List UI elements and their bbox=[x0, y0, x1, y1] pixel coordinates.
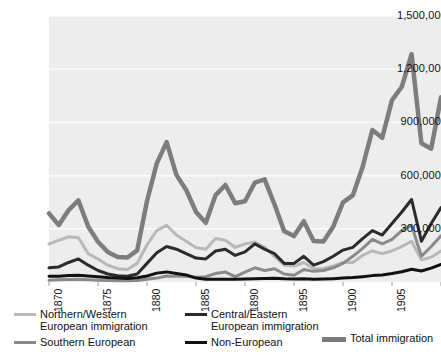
chart-plot-area: 1,500,0001,200,000900,000600,000300,000 … bbox=[0, 0, 441, 300]
immigration-line-chart-figure: 1,500,0001,200,000900,000600,000300,000 … bbox=[0, 0, 441, 356]
legend-line-total bbox=[322, 337, 346, 342]
legend-label: Southern European bbox=[40, 336, 135, 348]
y-axis-tick-label: 600,000 bbox=[397, 170, 441, 181]
legend-line-central-eastern bbox=[185, 313, 207, 316]
legend-label: Central/Eastern European immigration bbox=[211, 308, 319, 333]
legend-entry: Total immigration bbox=[322, 332, 433, 344]
legend-entry: Central/Eastern European immigration bbox=[185, 308, 319, 333]
chart-canvas bbox=[0, 0, 441, 300]
legend-entry: Non-European bbox=[185, 336, 283, 348]
y-axis-tick-label: 300,000 bbox=[397, 223, 441, 234]
legend-line-southern bbox=[14, 341, 36, 344]
legend-label: Total immigration bbox=[350, 332, 433, 344]
legend-entry: Northern/Western European immigration bbox=[14, 308, 148, 333]
y-axis-tick-label: 1,200,000 bbox=[397, 63, 441, 74]
plot-background bbox=[49, 16, 441, 282]
chart-legend: Northern/Western European immigrationCen… bbox=[0, 306, 441, 356]
legend-label: Northern/Western European immigration bbox=[40, 308, 148, 333]
legend-line-non-european bbox=[185, 341, 207, 344]
legend-entry: Southern European bbox=[14, 336, 135, 348]
y-axis-tick-label: 1,500,000 bbox=[397, 10, 441, 21]
legend-label: Non-European bbox=[211, 336, 283, 348]
y-axis-tick-label: 900,000 bbox=[397, 116, 441, 127]
legend-line-northern-western bbox=[14, 313, 36, 316]
